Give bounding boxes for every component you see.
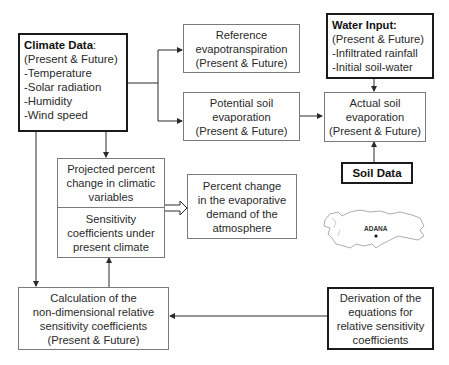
percent-change-demand-line: in the evaporative bbox=[198, 193, 286, 207]
actual-soil-evaporation-line: evaporation bbox=[346, 110, 404, 124]
reference-et-box: Reference evapotranspiration (Present & … bbox=[183, 24, 300, 73]
water-input-line: -Infiltrated rainfall bbox=[332, 46, 418, 60]
projected-change-line: change in climatic bbox=[67, 176, 156, 190]
calculation-line: Calculation of the bbox=[50, 291, 136, 305]
climate-data-title-row: Climate Data: bbox=[24, 38, 96, 52]
derivation-line: relative sensitivity bbox=[337, 319, 425, 333]
adana-marker bbox=[374, 234, 377, 237]
calculation-line: sensitivity coefficients bbox=[40, 319, 147, 333]
sensitivity-present-line: coefficients under bbox=[67, 226, 154, 240]
projected-change-box: Projected percent change in climatic var… bbox=[57, 158, 165, 208]
projected-change-line: Projected percent bbox=[67, 162, 155, 176]
reference-et-line: evapotranspiration bbox=[195, 42, 287, 56]
calculation-box: Calculation of the non-dimensional relat… bbox=[18, 287, 169, 350]
adana-label: ADANA bbox=[364, 225, 387, 232]
climate-data-line: -Solar radiation bbox=[24, 80, 101, 94]
derivation-line: coefficients bbox=[353, 333, 409, 347]
actual-soil-evaporation-line: Actual soil bbox=[350, 96, 401, 110]
sensitivity-present-line: Sensitivity bbox=[86, 212, 136, 226]
soil-data-box: Soil Data bbox=[341, 162, 413, 184]
water-input-line: (Present & Future) bbox=[332, 32, 424, 46]
percent-change-demand-line: Percent change bbox=[203, 179, 281, 193]
reference-et-line: Reference bbox=[216, 28, 268, 42]
potential-soil-evaporation-line: evaporation bbox=[212, 110, 270, 124]
climate-data-line: -Temperature bbox=[24, 66, 92, 80]
climate-data-title: Climate Data bbox=[24, 39, 93, 51]
climate-data-box: Climate Data: (Present & Future) -Temper… bbox=[18, 33, 128, 132]
calculation-line: (Present & Future) bbox=[47, 333, 139, 347]
reference-et-line: (Present & Future) bbox=[195, 56, 287, 70]
climate-data-line: -Humidity bbox=[24, 94, 72, 108]
potential-soil-evaporation-line: (Present & Future) bbox=[195, 124, 287, 138]
climate-data-line: -Wind speed bbox=[24, 108, 88, 122]
soil-data-title: Soil Data bbox=[352, 166, 401, 180]
derivation-line: Derivation of the bbox=[340, 291, 421, 305]
climate-data-line: (Present & Future) bbox=[24, 52, 118, 66]
water-input-title: Water Input: bbox=[332, 18, 397, 32]
percent-change-demand-line: atmosphere bbox=[212, 221, 271, 235]
actual-soil-evaporation-box: Actual soil evaporation (Present & Futur… bbox=[324, 92, 426, 142]
climate-data-title-colon: : bbox=[93, 39, 96, 51]
sensitivity-present-line: present climate bbox=[73, 240, 149, 254]
actual-soil-evaporation-line: (Present & Future) bbox=[329, 124, 421, 138]
derivation-line: equations for bbox=[348, 305, 413, 319]
derivation-box: Derivation of the equations for relative… bbox=[327, 287, 434, 350]
calculation-line: non-dimensional relative bbox=[33, 305, 154, 319]
percent-change-demand-line: demand of the bbox=[206, 207, 278, 221]
water-input-line: -Initial soil-water bbox=[332, 60, 413, 74]
potential-soil-evaporation-box: Potential soil evaporation (Present & Fu… bbox=[183, 92, 300, 141]
water-input-box: Water Input: (Present & Future) -Infiltr… bbox=[326, 13, 434, 79]
potential-soil-evaporation-line: Potential soil bbox=[210, 96, 273, 110]
sensitivity-present-box: Sensitivity coefficients under present c… bbox=[57, 207, 165, 258]
projected-change-line: variables bbox=[89, 190, 134, 204]
percent-change-demand-box: Percent change in the evaporative demand… bbox=[187, 174, 297, 239]
